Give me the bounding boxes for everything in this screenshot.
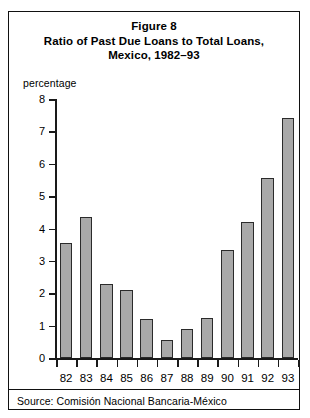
x-axis-tick-label: 91 — [237, 372, 259, 384]
y-axis-tick — [49, 99, 55, 101]
y-axis-tick — [49, 131, 55, 133]
x-axis-tick-label: 92 — [257, 372, 279, 384]
bar — [100, 284, 113, 358]
x-axis-tick-label: 86 — [136, 372, 158, 384]
y-axis-tick — [49, 326, 55, 328]
bar — [80, 217, 93, 358]
bar — [120, 290, 133, 358]
source-note: Source: Comisión Nacional Bancaria-Méxic… — [17, 395, 227, 407]
y-axis-tick-label: 5 — [27, 191, 45, 202]
y-axis-tick-label: 4 — [27, 224, 45, 235]
bar — [140, 319, 153, 358]
y-axis-tick-label: 7 — [27, 126, 45, 137]
x-axis-tick-label: 88 — [176, 372, 198, 384]
x-axis-tick — [278, 360, 280, 367]
y-axis-tick — [49, 261, 55, 263]
y-axis-tick-label: 1 — [27, 321, 45, 332]
x-axis-tick — [76, 360, 78, 367]
x-axis-tick — [137, 360, 139, 367]
y-axis-tick — [49, 293, 55, 295]
bar — [282, 118, 295, 358]
x-axis-tick-label: 84 — [95, 372, 117, 384]
x-axis-tick-label: 90 — [216, 372, 238, 384]
x-axis-tick-label: 87 — [156, 372, 178, 384]
source-divider — [9, 389, 299, 390]
x-axis-tick-label: 82 — [55, 372, 77, 384]
y-axis-line — [55, 99, 57, 360]
y-axis-tick-label: 8 — [27, 94, 45, 105]
x-axis-tick — [157, 360, 159, 367]
bar-chart-plot: 012345678 828384858687888990919293 — [9, 12, 301, 411]
y-axis-tick-label: 3 — [27, 256, 45, 267]
x-axis-tick-label: 85 — [116, 372, 138, 384]
bar — [241, 222, 254, 358]
x-axis-tick — [117, 360, 119, 367]
bar — [181, 329, 194, 358]
x-axis-tick-label: 83 — [75, 372, 97, 384]
bar — [261, 178, 274, 358]
x-axis-tick — [217, 360, 219, 367]
x-axis-tick — [238, 360, 240, 367]
y-axis-tick — [49, 196, 55, 198]
x-axis-tick-label: 93 — [277, 372, 299, 384]
bar — [161, 340, 174, 358]
x-axis-tick-label: 89 — [196, 372, 218, 384]
y-axis-tick-label: 2 — [27, 288, 45, 299]
bar — [201, 318, 214, 358]
y-axis-tick — [49, 164, 55, 166]
y-axis-tick-label: 6 — [27, 159, 45, 170]
x-axis-tick — [177, 360, 179, 367]
y-axis-tick-label: 0 — [27, 353, 45, 364]
x-axis-tick — [298, 360, 300, 367]
y-axis-tick — [49, 358, 55, 360]
x-axis-tick — [197, 360, 199, 367]
y-axis-tick — [49, 229, 55, 231]
x-axis-tick — [96, 360, 98, 367]
figure-frame: Figure 8 Ratio of Past Due Loans to Tota… — [8, 11, 300, 410]
bar — [221, 250, 234, 358]
bar — [60, 243, 73, 358]
x-axis-tick — [258, 360, 260, 367]
x-axis-tick — [56, 360, 58, 367]
